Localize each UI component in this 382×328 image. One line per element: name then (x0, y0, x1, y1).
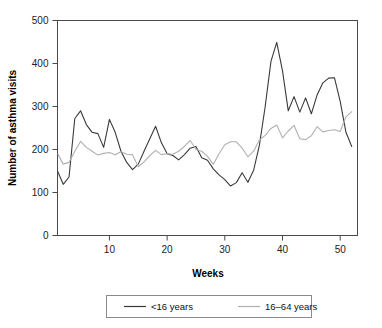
y-axis-tick-label: 200 (32, 144, 49, 155)
line-chart: 0100200300400500 1020304050 Number of as… (0, 0, 382, 328)
x-axis-title: Weeks (192, 268, 224, 279)
x-axis-tick-label: 50 (335, 244, 347, 255)
legend-label-under16: <16 years (151, 301, 193, 312)
y-axis-tick-label: 0 (43, 230, 49, 241)
y-axis-tick-label: 400 (32, 58, 49, 69)
x-axis-tick-label: 40 (277, 244, 289, 255)
y-axis-tick-label: 300 (32, 101, 49, 112)
y-axis: 0100200300400500 (32, 15, 58, 241)
chart-legend: <16 years16–64 years (107, 296, 318, 318)
y-axis-tick-label: 500 (32, 15, 49, 26)
y-axis-tick-label: 100 (32, 187, 49, 198)
x-axis-tick-label: 30 (219, 244, 231, 255)
legend-label-age16to64: 16–64 years (265, 301, 318, 312)
x-axis-tick-label: 20 (162, 244, 174, 255)
x-axis: 1020304050 (104, 236, 346, 255)
x-axis-tick-label: 10 (104, 244, 116, 255)
y-axis-title: Number of asthma visits (7, 69, 18, 186)
asthma-visits-chart-figure: 0100200300400500 1020304050 Number of as… (0, 0, 382, 328)
plot-area-border (58, 21, 358, 236)
